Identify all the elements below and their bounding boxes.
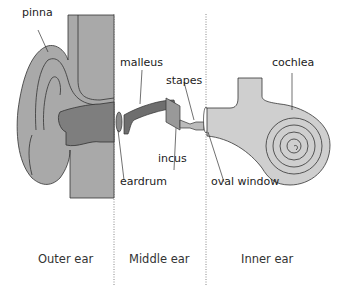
label-pinna: pinna — [22, 7, 53, 19]
label-incus: incus — [158, 153, 187, 165]
section-middle-ear: Middle ear — [129, 252, 190, 266]
label-eardrum: eardrum — [120, 176, 167, 188]
label-stapes: stapes — [166, 75, 202, 87]
eardrum-shape — [116, 112, 122, 132]
ear-diagram — [0, 0, 343, 289]
section-inner-ear: Inner ear — [241, 252, 293, 266]
pinna-shape — [17, 15, 114, 198]
label-oval-window: oval window — [211, 176, 279, 188]
cochlea-shape — [207, 78, 330, 185]
stapes-shape — [180, 120, 204, 130]
label-cochlea: cochlea — [272, 57, 314, 69]
incus-shape — [166, 98, 180, 130]
label-malleus: malleus — [120, 57, 163, 69]
section-outer-ear: Outer ear — [38, 252, 93, 266]
